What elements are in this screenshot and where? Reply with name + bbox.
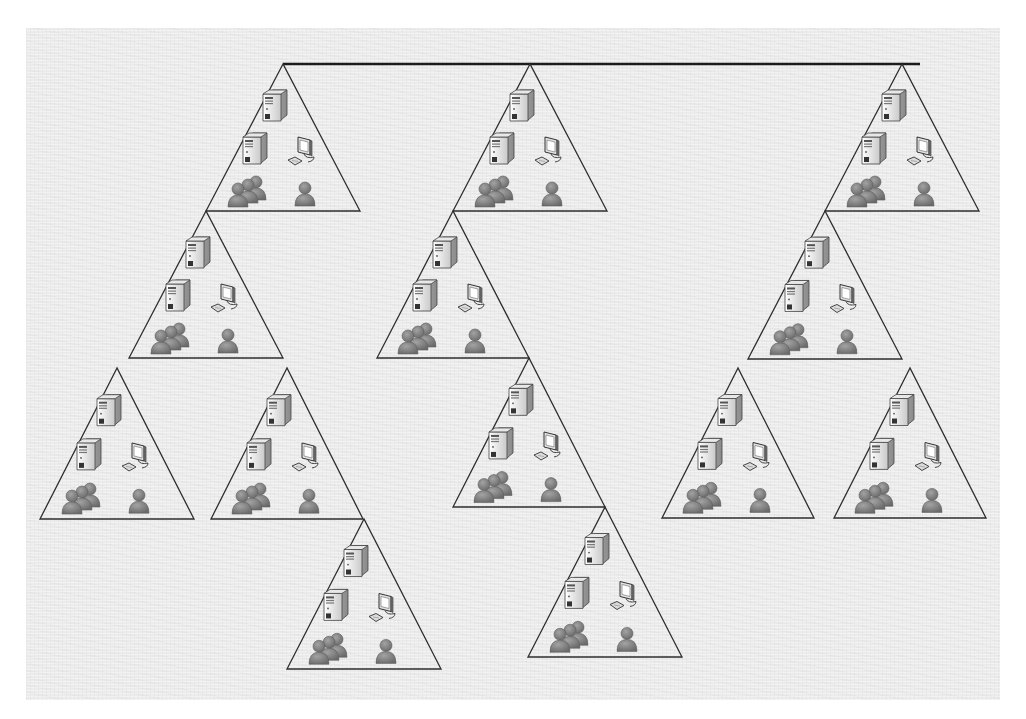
server-icon: [77, 439, 101, 470]
server-icon: [585, 534, 609, 565]
server-icon: [870, 438, 894, 469]
domain-triangle: [453, 358, 605, 507]
domain-triangle: [129, 211, 283, 358]
user-group-icon: [475, 176, 513, 207]
domain-node-t12: [662, 368, 814, 518]
domain-triangle: [40, 368, 194, 519]
user-icon: [465, 329, 485, 353]
domain-node-t8: [453, 358, 605, 507]
workstation-icon: [743, 442, 769, 470]
domain-triangle: [825, 64, 979, 211]
domain-tree-nodes: [40, 64, 986, 669]
workstation-icon: [535, 137, 561, 165]
user-icon: [376, 639, 396, 663]
server-icon: [413, 280, 437, 311]
domain-triangle: [662, 368, 814, 518]
user-icon: [295, 182, 315, 206]
domain-node-t2: [129, 211, 283, 358]
domain-triangle: [528, 507, 682, 657]
server-icon: [490, 133, 514, 164]
user-icon: [837, 330, 857, 354]
server-icon: [97, 395, 121, 426]
user-group-icon: [232, 483, 270, 514]
domain-triangle: [834, 368, 986, 518]
user-group-icon: [550, 621, 588, 652]
user-icon: [750, 488, 770, 512]
user-group-icon: [770, 324, 808, 355]
user-icon: [129, 489, 149, 513]
domain-triangle: [287, 519, 441, 669]
workstation-icon: [458, 284, 484, 312]
server-icon: [890, 395, 914, 426]
workstation-icon: [288, 137, 314, 165]
user-icon: [914, 182, 934, 206]
domain-node-t9: [528, 507, 682, 657]
domain-node-t1: [206, 64, 360, 211]
user-group-icon: [855, 482, 893, 513]
server-icon: [882, 90, 906, 121]
workstation-icon: [915, 442, 941, 470]
user-group-icon: [474, 472, 512, 503]
server-icon: [510, 90, 534, 121]
server-icon: [862, 133, 886, 164]
user-group-icon: [683, 482, 721, 513]
server-icon: [433, 237, 457, 268]
server-icon: [247, 439, 271, 470]
workstation-icon: [907, 137, 933, 165]
domain-node-t5: [287, 519, 441, 669]
domain-triangle: [453, 64, 607, 211]
user-group-icon: [151, 323, 189, 354]
server-icon: [263, 90, 287, 121]
domain-node-t13: [834, 368, 986, 518]
server-icon: [805, 237, 829, 268]
workstation-icon: [830, 284, 856, 312]
server-icon: [324, 589, 348, 620]
user-group-icon: [62, 483, 100, 514]
domain-node-t3: [40, 368, 194, 519]
server-icon: [718, 395, 742, 426]
domain-node-t10: [825, 64, 979, 211]
workstation-icon: [369, 593, 395, 621]
domain-triangle: [206, 64, 360, 211]
server-icon: [267, 395, 291, 426]
server-icon: [698, 438, 722, 469]
user-icon: [218, 329, 238, 353]
workstation-icon: [211, 284, 237, 312]
domain-node-t4: [211, 368, 363, 519]
user-icon: [617, 627, 637, 651]
user-group-icon: [398, 323, 436, 354]
user-icon: [922, 488, 942, 512]
domain-node-t6: [453, 64, 607, 211]
domain-node-t11: [748, 211, 902, 359]
domain-triangle: [211, 368, 363, 519]
server-icon: [565, 577, 589, 608]
user-group-icon: [228, 176, 266, 207]
workstation-icon: [292, 443, 318, 471]
server-icon: [243, 133, 267, 164]
user-icon: [542, 182, 562, 206]
server-icon: [166, 280, 190, 311]
server-icon: [785, 280, 809, 311]
server-icon: [509, 384, 533, 415]
user-icon: [299, 489, 319, 513]
domain-triangle: [377, 211, 529, 358]
domain-node-t7: [377, 211, 529, 358]
user-group-icon: [847, 176, 885, 207]
user-icon: [541, 478, 561, 502]
server-icon: [344, 546, 368, 577]
server-icon: [186, 237, 210, 268]
workstation-icon: [534, 432, 560, 460]
network-topology-diagram: [0, 0, 1026, 719]
domain-triangle: [748, 211, 902, 359]
server-icon: [489, 428, 513, 459]
workstation-icon: [610, 581, 636, 609]
user-group-icon: [309, 633, 347, 664]
workstation-icon: [122, 443, 148, 471]
